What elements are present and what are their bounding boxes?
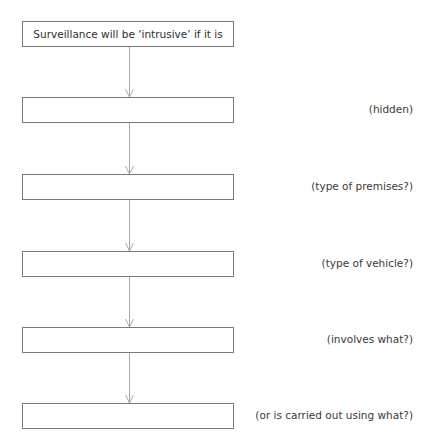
step-box-2 [22, 174, 234, 200]
step-hint-2: (type of premises?) [311, 180, 413, 192]
arrow-1 [126, 47, 134, 97]
step-hint-4: (involves what?) [327, 333, 413, 345]
step-hint-5: (or is carried out using what?) [255, 409, 413, 421]
step-hint-3: (type of vehicle?) [322, 257, 413, 269]
step-hint-1: (hidden) [369, 103, 413, 115]
arrow-3 [126, 200, 134, 251]
step-box-4 [22, 327, 234, 353]
start-box-text: Surveillance will be ‘intrusive’ if it i… [33, 28, 222, 40]
step-box-3 [22, 251, 234, 277]
step-box-1 [22, 97, 234, 123]
start-box: Surveillance will be ‘intrusive’ if it i… [22, 21, 234, 47]
connector-arrows [0, 0, 433, 446]
arrow-4 [126, 277, 134, 327]
arrow-5 [126, 353, 134, 403]
arrow-2 [126, 123, 134, 174]
step-box-5 [22, 403, 234, 429]
